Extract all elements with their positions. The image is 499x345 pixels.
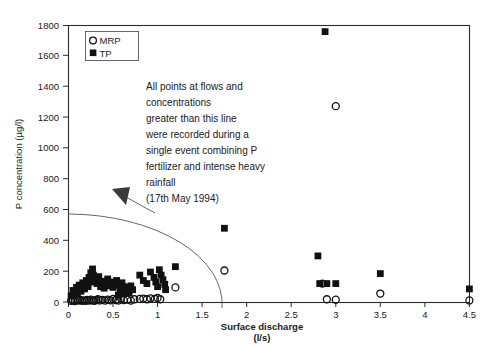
y-tick-label: 1800 xyxy=(38,20,59,31)
x-tick-label: 3.5 xyxy=(374,309,387,320)
x-tick-label: 3 xyxy=(333,309,338,320)
data-point-mrp xyxy=(221,267,228,274)
x-tick-group-8: 4 xyxy=(422,302,427,320)
x-tick-group-3: 1.5 xyxy=(195,302,208,320)
y-axis-title: P concentration (µg/l) xyxy=(13,119,24,209)
x-tick-label: 0.5 xyxy=(106,309,119,320)
data-marker-layer xyxy=(68,28,473,304)
y-tick-label: 800 xyxy=(43,173,59,184)
x-tick-label: 2 xyxy=(244,309,249,320)
data-point-mrp xyxy=(172,284,179,291)
y-tick-label: 0 xyxy=(54,297,59,308)
x-tick-group-6: 3 xyxy=(333,302,338,320)
x-tick-label: 2.5 xyxy=(285,309,298,320)
chart-canvas: 0 200 400 600 800 1000 xyxy=(0,0,499,345)
annotation-line: fertilizer and intense heavy xyxy=(146,161,265,172)
y-axis: 0 200 400 600 800 1000 xyxy=(38,20,69,308)
x-tick-label: 1 xyxy=(155,309,160,320)
y-tick-group-3: 600 xyxy=(43,204,68,215)
x-tick-group-4: 2 xyxy=(244,302,249,320)
y-tick-group-1: 200 xyxy=(43,266,68,277)
data-point-tp xyxy=(466,286,473,293)
data-point-tp xyxy=(315,253,322,260)
annotation-text-block: All points at flows and concentrations g… xyxy=(145,81,265,204)
data-point-tp xyxy=(332,280,339,287)
data-point-tp xyxy=(221,225,228,232)
x-axis-title: Surface discharge xyxy=(221,321,303,332)
data-point-tp xyxy=(322,28,329,35)
legend-label-mrp: MRP xyxy=(100,35,121,46)
y-tick-group-6: 1200 xyxy=(38,112,69,123)
data-point-tp xyxy=(115,292,122,299)
data-point-tp xyxy=(377,270,384,277)
x-tick-group-5: 2.5 xyxy=(285,302,298,320)
legend-label-tp: TP xyxy=(100,48,112,59)
y-tick-label: 600 xyxy=(43,204,59,215)
y-tick-group-5: 1000 xyxy=(38,142,69,153)
annotation-line: single event combining P xyxy=(146,145,258,156)
y-tick-label: 1000 xyxy=(38,142,59,153)
annotation-line: concentrations xyxy=(146,97,211,108)
y-tick-label: 1400 xyxy=(38,81,59,92)
annotation-line: greater than this line xyxy=(146,113,237,124)
legend: MRP TP xyxy=(86,32,139,61)
y-tick-group-2: 400 xyxy=(43,235,68,246)
y-tick-label: 1600 xyxy=(38,50,59,61)
data-point-tp xyxy=(144,280,151,287)
data-point-tp xyxy=(154,283,161,290)
data-point-mrp xyxy=(377,290,384,297)
data-point-tp xyxy=(129,286,136,293)
data-point-tp xyxy=(323,280,330,287)
x-tick-label: 0 xyxy=(66,309,71,320)
arrow-head-icon xyxy=(112,187,130,205)
threshold-curve xyxy=(69,214,223,308)
data-point-tp xyxy=(172,263,179,270)
x-tick-label: 1.5 xyxy=(195,309,208,320)
x-tick-group-9: 4.5 xyxy=(463,302,476,320)
scatter-plot-figure: 0 200 400 600 800 1000 xyxy=(0,0,499,345)
y-tick-group-8: 1600 xyxy=(38,50,69,61)
x-axis-units: (l/s) xyxy=(254,332,271,343)
x-axis: 0 0.5 1 1.5 2 2.5 xyxy=(66,302,476,320)
y-tick-label: 1200 xyxy=(38,112,59,123)
x-tick-label: 4 xyxy=(422,309,427,320)
y-tick-label: 400 xyxy=(43,235,59,246)
data-point-mrp xyxy=(323,296,330,303)
y-tick-group-7: 1400 xyxy=(38,81,69,92)
y-tick-group-0: 0 xyxy=(54,297,69,308)
y-tick-group-9: 1800 xyxy=(38,20,69,31)
data-point-mrp xyxy=(332,103,339,110)
x-tick-group-7: 3.5 xyxy=(374,302,387,320)
annotation-line: were recorded during a xyxy=(145,129,249,140)
y-tick-label: 200 xyxy=(43,266,59,277)
legend-marker-tp-icon xyxy=(90,50,97,57)
data-point-tp xyxy=(316,280,323,287)
data-point-tp xyxy=(162,286,169,293)
x-tick-label: 4.5 xyxy=(463,309,476,320)
annotation-line: (17th May 1994) xyxy=(146,193,219,204)
annotation-line: All points at flows and xyxy=(146,81,243,92)
plot-frame xyxy=(69,26,470,303)
y-tick-group-4: 800 xyxy=(43,173,68,184)
x-tick-group-2: 1 xyxy=(155,302,160,320)
annotation-line: rainfall xyxy=(146,177,175,188)
x-tick-group-1: 0.5 xyxy=(106,302,119,320)
data-point-tp xyxy=(89,266,96,273)
